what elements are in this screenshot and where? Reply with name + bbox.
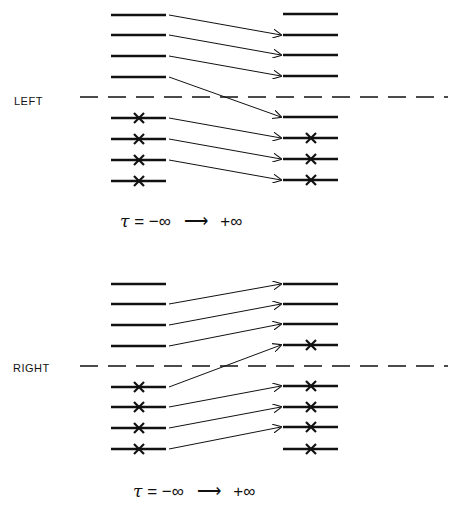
tau-caption-top: τ = −∞ ⟶ +∞	[120, 211, 242, 232]
transition-arrow	[169, 160, 281, 180]
level-diagram	[0, 0, 465, 511]
minus-infinity: −∞	[162, 482, 184, 501]
transition-arrow	[169, 427, 281, 449]
transition-arrow	[169, 324, 281, 346]
transition-arrow	[169, 118, 281, 138]
minus-infinity: −∞	[149, 212, 171, 231]
panel-right	[80, 284, 448, 454]
plus-infinity: +∞	[233, 482, 255, 501]
plus-infinity: +∞	[220, 212, 242, 231]
transition-arrow	[169, 304, 281, 325]
transition-arrow	[169, 56, 281, 76]
long-arrow-icon: ⟶	[184, 212, 208, 231]
long-arrow-icon: ⟶	[197, 482, 221, 501]
tau-symbol: τ	[120, 211, 129, 231]
transition-arrow	[169, 407, 281, 428]
transition-arrow	[169, 284, 281, 304]
panel-label-right: RIGHT	[13, 362, 50, 374]
equals-sign: =	[147, 482, 157, 501]
transition-arrow	[169, 139, 281, 159]
tau-caption-bottom: τ = −∞ ⟶ +∞	[133, 481, 255, 502]
equals-sign: =	[134, 212, 144, 231]
transition-arrow	[169, 15, 281, 35]
transition-arrow	[169, 386, 281, 407]
panel-left	[80, 14, 448, 186]
transition-arrow	[169, 35, 281, 55]
tau-symbol: τ	[133, 481, 142, 501]
panel-label-left: LEFT	[14, 95, 43, 107]
